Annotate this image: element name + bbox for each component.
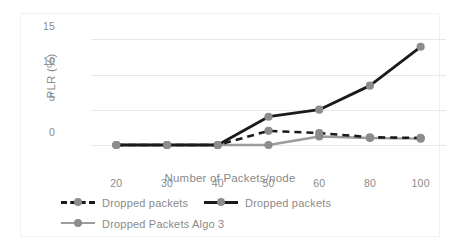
legend-key-dashed-line-icon [61, 197, 95, 208]
data-point [264, 141, 272, 149]
legend-item-dropped-packets-solid[interactable]: Dropped packets [204, 197, 331, 209]
chart-container: 15 10 5 0 PLR (%) 20 30 40 50 [20, 13, 440, 237]
plot-area: 20 30 40 50 60 80 100 [91, 39, 446, 146]
legend-item-dropped-packets-dashed[interactable]: Dropped packets [61, 197, 204, 209]
data-point [315, 129, 323, 137]
legend-item-dropped-packets-algo-3[interactable]: Dropped Packets Algo 3 [61, 218, 224, 230]
legend-label: Dropped Packets Algo 3 [102, 218, 224, 230]
y-tick-0: 0 [21, 126, 55, 138]
data-point [112, 141, 120, 149]
data-point [417, 134, 425, 142]
legend-row-1: Dropped packets Dropped packets [61, 192, 431, 213]
y-axis-title: PLR (%) [45, 36, 57, 116]
legend-row-2: Dropped Packets Algo 3 [61, 213, 431, 234]
data-point [163, 141, 171, 149]
legend-key-solid-line-icon [204, 197, 238, 208]
chart-legend: Dropped packets Dropped packets Dropped … [61, 192, 431, 234]
series-plot [91, 39, 446, 146]
x-axis-title: Number of Packets/node [21, 172, 439, 184]
legend-label: Dropped packets [102, 197, 188, 209]
data-point [366, 82, 374, 90]
data-point [264, 113, 272, 121]
legend-key-gray-line-icon [61, 218, 95, 229]
data-point [366, 133, 374, 141]
data-point [417, 43, 425, 51]
y-tick-15: 15 [21, 20, 55, 32]
data-point [214, 141, 222, 149]
data-point [315, 106, 323, 114]
legend-label: Dropped packets [245, 197, 331, 209]
data-point [264, 127, 272, 135]
